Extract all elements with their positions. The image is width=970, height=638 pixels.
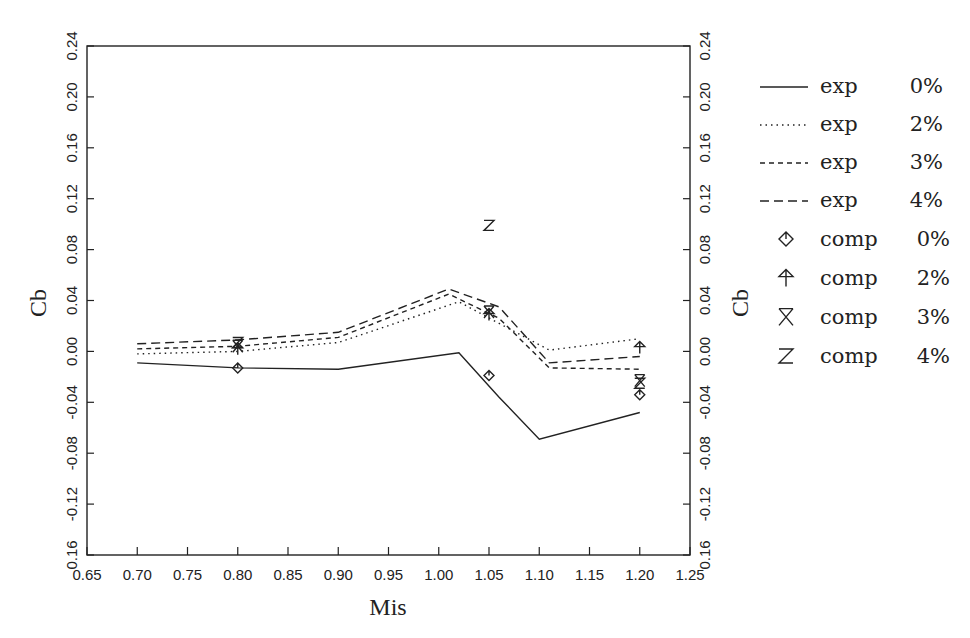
y-tick-label-right: 0.16 xyxy=(696,540,713,569)
y-tick-label-right: 0.00 xyxy=(696,337,713,366)
x-axis: 0.650.700.750.800.850.900.951.001.051.10… xyxy=(72,547,704,583)
series-line-exp-3- xyxy=(137,294,640,369)
legend-label: comp xyxy=(820,344,878,368)
y-tick-label-right: 0.20 xyxy=(696,82,713,111)
x-tick-label: 1.05 xyxy=(474,566,503,583)
y-tick-label-left: 0.24 xyxy=(63,31,80,60)
y-tick-label-left: 0.16 xyxy=(63,540,80,569)
y-tick-label-right: 0.16 xyxy=(696,133,713,162)
x-tick-label: 1.10 xyxy=(525,566,554,583)
series-line-exp-2- xyxy=(137,302,640,354)
legend-value: 0% xyxy=(917,227,950,251)
legend-label: exp xyxy=(820,150,858,174)
legend-value: 2% xyxy=(917,266,950,290)
marker-arrow-up-icon xyxy=(484,308,494,320)
legend-label: exp xyxy=(820,112,858,136)
y-tick-label-left: 0.16 xyxy=(63,133,80,162)
x-tick-label: 0.85 xyxy=(273,566,302,583)
legend-item: exp2% xyxy=(760,112,943,136)
y-tick-label-left: -0.12 xyxy=(63,487,80,521)
legend: exp0%exp2%exp3%exp4%comp0%comp2%comp3%co… xyxy=(760,74,950,368)
marker-layer xyxy=(233,220,645,399)
marker-diamond-tick-icon xyxy=(779,232,793,246)
x-tick-label: 0.90 xyxy=(324,566,353,583)
y-axis-left: 0.16-0.12-0.08-0.040.000.040.080.120.160… xyxy=(63,31,94,569)
x-axis-title: Mis xyxy=(369,594,406,620)
marker-arrow-up-icon xyxy=(635,342,645,354)
legend-value: 0% xyxy=(910,74,943,98)
y-tick-label-left: 0.12 xyxy=(63,184,80,213)
y-tick-label-right: -0.04 xyxy=(696,385,713,419)
legend-value: 4% xyxy=(910,188,943,212)
y-tick-label-right: 0.08 xyxy=(696,235,713,264)
x-tick-label: 0.70 xyxy=(123,566,152,583)
y-tick-label-right: 0.24 xyxy=(696,31,713,60)
y-tick-label-left: -0.08 xyxy=(63,436,80,470)
x-tick-label: 0.95 xyxy=(374,566,403,583)
y-tick-label-right: 0.12 xyxy=(696,184,713,213)
marker-arrow-up-icon xyxy=(233,343,243,355)
legend-value: 3% xyxy=(917,305,950,329)
legend-label: comp xyxy=(820,266,878,290)
plot-frame xyxy=(87,46,690,555)
y-tick-label-right: -0.12 xyxy=(696,487,713,521)
marker-z-icon xyxy=(484,220,494,230)
x-tick-label: 0.80 xyxy=(223,566,252,583)
y-axis-title-right: Cb xyxy=(727,289,753,317)
legend-label: exp xyxy=(820,188,858,212)
legend-item: exp4% xyxy=(760,188,943,212)
legend-item: comp0% xyxy=(779,227,950,251)
legend-label: comp xyxy=(820,305,878,329)
series-line-exp-0- xyxy=(137,353,640,440)
legend-value: 3% xyxy=(910,150,943,174)
x-tick-label: 1.00 xyxy=(424,566,453,583)
marker-arrow-up-icon xyxy=(779,270,793,287)
x-tick-label: 1.15 xyxy=(575,566,604,583)
marker-hourglass-icon xyxy=(779,309,793,326)
y-tick-label-right: 0.04 xyxy=(696,286,713,315)
legend-item: exp3% xyxy=(760,150,943,174)
y-tick-label-right: -0.08 xyxy=(696,436,713,470)
legend-item: comp4% xyxy=(779,344,950,368)
legend-value: 4% xyxy=(917,344,950,368)
legend-label: comp xyxy=(820,227,878,251)
series-layer xyxy=(137,289,640,439)
x-tick-label: 0.75 xyxy=(173,566,202,583)
y-axis-right: 0.16-0.12-0.08-0.040.000.040.080.120.160… xyxy=(683,31,713,569)
y-axis-title-left: Cb xyxy=(25,289,51,317)
y-tick-label-left: 0.20 xyxy=(63,82,80,111)
marker-diamond-tick-icon xyxy=(484,371,494,381)
plot-border xyxy=(87,46,690,555)
legend-item: comp3% xyxy=(779,305,950,329)
legend-item: comp2% xyxy=(779,266,950,290)
legend-label: exp xyxy=(820,74,858,98)
y-tick-label-left: 0.08 xyxy=(63,235,80,264)
legend-item: exp0% xyxy=(760,74,943,98)
marker-z-icon xyxy=(779,349,793,363)
y-tick-label-left: -0.04 xyxy=(63,385,80,419)
marker-diamond-tick-icon xyxy=(635,390,645,400)
y-tick-label-left: 0.04 xyxy=(63,286,80,315)
chart: 0.650.700.750.800.850.900.951.001.051.10… xyxy=(0,0,970,638)
y-tick-label-left: 0.00 xyxy=(63,337,80,366)
legend-value: 2% xyxy=(910,112,943,136)
x-tick-label: 1.20 xyxy=(625,566,654,583)
